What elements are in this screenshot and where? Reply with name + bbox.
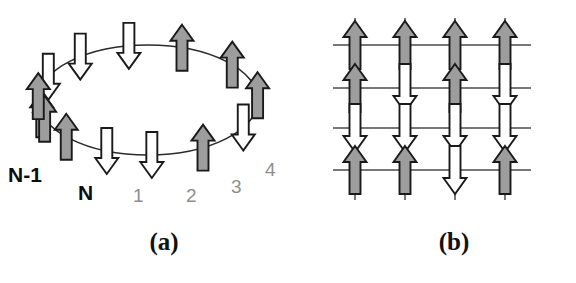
caption-panel-b: (b) bbox=[288, 228, 576, 256]
figure-root: N-1N1234 (a) (b) bbox=[0, 0, 576, 283]
ring-site-label-2: 2 bbox=[186, 186, 197, 205]
spin-up-arrow-site-8 bbox=[192, 125, 215, 171]
ring-site-label-N1: N-1 bbox=[8, 164, 42, 185]
spin-up-arrow-site-11 bbox=[55, 114, 78, 160]
caption-panel-a: (a) bbox=[0, 228, 308, 256]
spin-up-arrow-site-5 bbox=[221, 42, 244, 88]
panel-a-ring: N-1N1234 (a) bbox=[0, 0, 288, 283]
arrow-body bbox=[170, 25, 193, 71]
ring-site-label-1: 1 bbox=[133, 186, 144, 205]
arrow-body bbox=[221, 42, 244, 88]
ring-site-label-3: 3 bbox=[231, 177, 242, 196]
arrow-body bbox=[192, 125, 215, 171]
spin-down-arrow-site-2 bbox=[69, 34, 92, 80]
spin-up-arrow-site-4 bbox=[170, 25, 193, 71]
panel-b-lattice: (b) bbox=[288, 0, 576, 283]
arrow-body bbox=[95, 128, 118, 174]
ring-diagram bbox=[0, 0, 288, 230]
arrow-body bbox=[69, 34, 92, 80]
lattice-diagram bbox=[288, 0, 576, 230]
lattice-spins bbox=[344, 21, 517, 194]
arrow-body bbox=[55, 114, 78, 160]
ring-site-label-4: 4 bbox=[265, 160, 276, 179]
spin-down-arrow-site-10 bbox=[95, 128, 118, 174]
ring-site-label-N: N bbox=[78, 182, 93, 203]
